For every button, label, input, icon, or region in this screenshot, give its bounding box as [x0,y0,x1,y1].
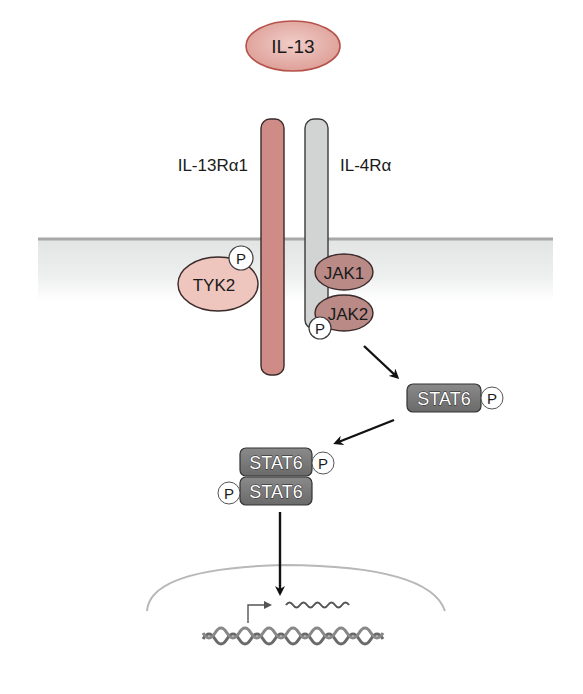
il13-signaling-diagram: IL-13 IL-13Rα1 IL-4Rα TYK2 P JAK1 JAK2 P… [0,0,583,694]
il13-ligand: IL-13 [246,21,340,71]
il13-label: IL-13 [271,36,314,57]
arrow-stat6-to-dimer [336,420,394,443]
stat6-dimer: STAT6 P STAT6 P [218,448,334,505]
transcription-start-icon [248,605,270,623]
mrna-icon [286,603,349,608]
jak1-label: JAK1 [324,264,365,283]
tyk2-label: TYK2 [193,276,236,295]
stat6-dimer-bottom-label: STAT6 [249,482,302,502]
dna-helix-icon [203,628,383,644]
jak2-phospho-label: P [315,320,325,337]
nucleus [147,565,445,611]
stat6-dimer-top-phospho: P [318,455,328,472]
tyk2-phospho-label: P [236,250,246,267]
arrow-jak-to-stat6 [364,346,397,377]
il13ra1-receptor [261,119,284,375]
jak2-label: JAK2 [328,305,369,324]
il4ra-label: IL-4Rα [340,156,392,175]
il13ra1-label: IL-13Rα1 [178,156,248,175]
il4ra-receptor [305,119,328,329]
stat6-phospho-label: P [487,390,497,407]
cell-membrane [38,239,553,301]
stat6-label: STAT6 [417,389,470,409]
jak1-kinase: JAK1 [315,254,373,290]
stat6-dimer-bottom-phospho: P [224,485,234,502]
stat6-phosphorylated: STAT6 P [407,384,503,412]
stat6-dimer-top-label: STAT6 [249,453,302,473]
